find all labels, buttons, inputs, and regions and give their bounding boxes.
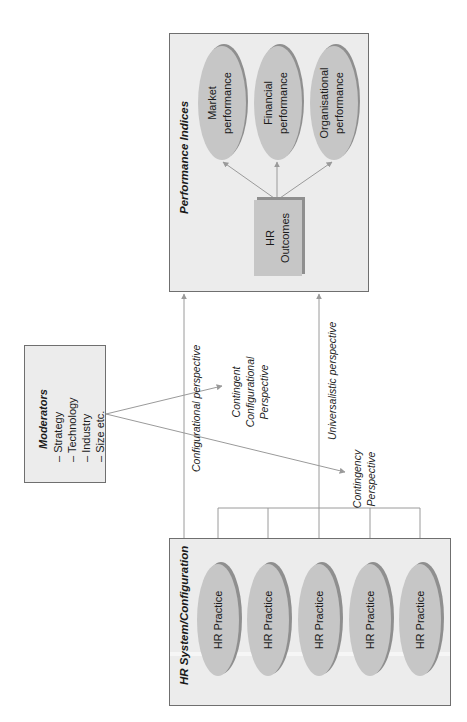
hr-practice-node-5: HR Practice — [399, 562, 444, 676]
configurational-perspective-label: Configurational perspective — [190, 345, 202, 472]
hr-practice-node-3: HR Practice — [298, 562, 343, 676]
hr-practice-label: HR Practice — [414, 591, 426, 650]
svg-text:Configurational: Configurational — [244, 356, 256, 427]
hr-practice-node-2: HR Practice — [247, 562, 292, 676]
contingency-perspective-label: Contingency Perspective — [351, 449, 377, 508]
market-performance-line1: Market — [206, 86, 218, 120]
moderators-title: Moderators — [37, 389, 49, 449]
performance-indices-panel: Performance Indices Market performance F… — [170, 34, 369, 292]
hr-system-panel: HR System/Configuration HR Practice HR P… — [170, 539, 451, 706]
hr-practice-label: HR Practice — [313, 591, 325, 650]
svg-text:Perspective: Perspective — [365, 451, 377, 506]
hr-outcomes-line2: Outcomes — [279, 212, 291, 263]
performance-indices-title: Performance Indices — [178, 101, 190, 214]
svg-text:Perspective: Perspective — [258, 364, 270, 419]
organisational-performance-line2: performance — [333, 72, 345, 134]
svg-text:Contingency: Contingency — [351, 449, 363, 508]
moderators-panel: Moderators – Strategy – Technology – Ind… — [25, 346, 107, 483]
hr-performance-diagram: Performance Indices Market performance F… — [0, 0, 467, 722]
hr-practice-node-4: HR Practice — [349, 562, 394, 676]
moderator-strategy: – Strategy — [52, 411, 64, 462]
moderator-technology: – Technology — [66, 397, 78, 462]
hr-outcomes-line1: HR — [264, 230, 276, 246]
hr-practice-label: HR Practice — [212, 591, 224, 650]
arrow-contingency — [106, 414, 345, 472]
arrow-contingent-configurational — [106, 386, 222, 414]
financial-performance-line1: Financial — [262, 81, 274, 125]
financial-performance-line2: performance — [277, 72, 289, 134]
organisational-performance-line1: Organisational — [318, 68, 330, 139]
moderator-industry: – Industry — [80, 413, 92, 462]
hr-practice-node-1: HR Practice — [197, 562, 242, 676]
hr-practice-label: HR Practice — [262, 591, 274, 650]
hr-outcomes-node: HR Outcomes — [254, 197, 305, 276]
hr-system-title: HR System/Configuration — [178, 546, 190, 685]
market-performance-line2: performance — [221, 72, 233, 134]
moderator-size: – Size etc. — [94, 411, 106, 462]
contingent-configurational-label: Contingent Configurational Perspective — [230, 356, 270, 427]
universalistic-perspective-label: Universalistic perspective — [326, 321, 338, 440]
svg-text:Contingent: Contingent — [230, 366, 242, 418]
hr-practice-label: HR Practice — [364, 591, 376, 650]
